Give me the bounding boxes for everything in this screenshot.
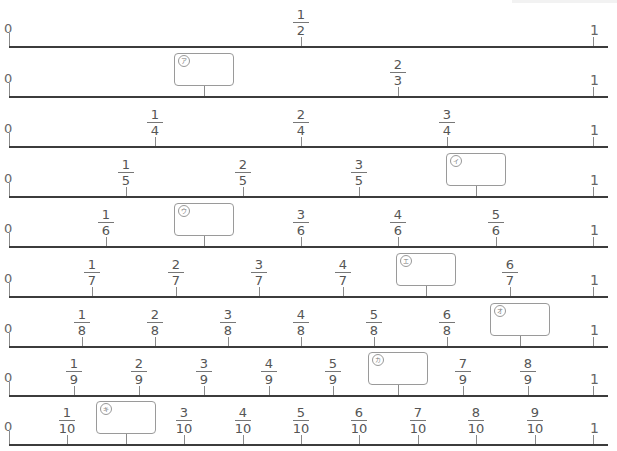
- fraction-tick: [447, 137, 448, 146]
- fraction-numerator: 1: [112, 158, 140, 171]
- fraction-tick: [67, 435, 68, 444]
- fraction-tick: [155, 137, 156, 146]
- fraction-label: 18: [68, 308, 96, 337]
- answer-box[interactable]: ア: [174, 53, 234, 86]
- fraction-label: 56: [482, 208, 510, 237]
- number-line-row: 01142434: [0, 98, 617, 148]
- fraction-tick: [398, 87, 399, 96]
- answer-box[interactable]: エ: [396, 253, 456, 286]
- fraction-numerator: 2: [162, 258, 190, 271]
- zero-label: 0: [4, 171, 12, 186]
- fraction-label: 36: [287, 208, 315, 237]
- fraction-numerator: 3: [190, 357, 218, 370]
- fraction-numerator: 4: [329, 258, 357, 271]
- fraction-tick: [92, 287, 93, 296]
- fraction-numerator: 9: [521, 406, 549, 419]
- fraction-label: 67: [496, 258, 524, 287]
- number-line-row: 0123ア: [0, 48, 617, 98]
- fraction-denominator: 5: [345, 174, 373, 187]
- fraction-numerator: 5: [482, 208, 510, 221]
- fraction-label: 910: [521, 406, 549, 435]
- fraction-denominator: 10: [287, 422, 315, 435]
- fraction-denominator: 9: [190, 373, 218, 386]
- fraction-numerator: 2: [141, 308, 169, 321]
- fraction-tick: [359, 187, 360, 196]
- answer-mark-label: カ: [372, 354, 384, 366]
- one-label: 1: [590, 272, 599, 288]
- fraction-denominator: 8: [68, 324, 96, 337]
- one-tick: [593, 187, 594, 196]
- fraction-tick: [476, 435, 477, 444]
- fraction-tick: [204, 386, 205, 395]
- fraction-denominator: 6: [482, 224, 510, 237]
- fraction-denominator: 5: [229, 174, 257, 187]
- fraction-denominator: 9: [60, 373, 88, 386]
- fraction-numerator: 4: [384, 208, 412, 221]
- fraction-denominator: 7: [329, 274, 357, 287]
- answer-box[interactable]: オ: [490, 303, 550, 336]
- number-line-row: 011727374767エ: [0, 248, 617, 298]
- fraction-denominator: 4: [287, 124, 315, 137]
- fraction-label: 810: [462, 406, 490, 435]
- fraction-label: 15: [112, 158, 140, 187]
- fraction-tick: [269, 386, 270, 395]
- one-label: 1: [590, 22, 599, 38]
- fraction-numerator: 6: [496, 258, 524, 271]
- fraction-denominator: 7: [78, 274, 106, 287]
- one-tick: [593, 237, 594, 246]
- fraction-label: 410: [229, 406, 257, 435]
- answer-tick: [398, 385, 399, 395]
- fraction-numerator: 8: [462, 406, 490, 419]
- fraction-tick: [176, 287, 177, 296]
- fraction-numerator: 1: [78, 258, 106, 271]
- fraction-denominator: 9: [449, 373, 477, 386]
- fraction-label: 39: [190, 357, 218, 386]
- number-line-row: 01152535イ: [0, 148, 617, 198]
- fraction-label: 37: [245, 258, 273, 287]
- answer-box[interactable]: カ: [368, 352, 428, 385]
- fraction-numerator: 3: [245, 258, 273, 271]
- fraction-label: 59: [319, 357, 347, 386]
- number-line-axis: [9, 444, 608, 446]
- fraction-denominator: 10: [53, 422, 81, 435]
- one-tick: [593, 87, 594, 96]
- fraction-label: 710: [404, 406, 432, 435]
- one-label: 1: [590, 222, 599, 238]
- fraction-tick: [259, 287, 260, 296]
- answer-box[interactable]: キ: [96, 401, 156, 434]
- fraction-tick: [528, 386, 529, 395]
- fraction-numerator: 3: [287, 208, 315, 221]
- zero-label: 0: [4, 271, 12, 286]
- answer-box[interactable]: ウ: [174, 203, 234, 236]
- fraction-numerator: 5: [319, 357, 347, 370]
- fraction-numerator: 2: [125, 357, 153, 370]
- fraction-label: 47: [329, 258, 357, 287]
- fraction-label: 24: [287, 108, 315, 137]
- fraction-denominator: 7: [245, 274, 273, 287]
- one-tick: [593, 386, 594, 395]
- fraction-label: 23: [384, 58, 412, 87]
- zero-label: 0: [4, 71, 12, 86]
- fraction-label: 14: [141, 108, 169, 137]
- fraction-label: 89: [514, 357, 542, 386]
- one-tick: [593, 37, 594, 46]
- fraction-denominator: 4: [141, 124, 169, 137]
- fraction-denominator: 7: [162, 274, 190, 287]
- answer-mark-label: イ: [450, 155, 462, 167]
- answer-tick: [126, 434, 127, 444]
- fraction-label: 49: [255, 357, 283, 386]
- number-line-row: 0112: [0, 0, 617, 48]
- one-tick: [593, 435, 594, 444]
- fraction-denominator: 10: [345, 422, 373, 435]
- fraction-numerator: 7: [404, 406, 432, 419]
- one-label: 1: [590, 172, 599, 188]
- answer-box[interactable]: イ: [446, 153, 506, 186]
- fraction-numerator: 1: [287, 8, 315, 21]
- fraction-denominator: 6: [92, 224, 120, 237]
- fraction-denominator: 9: [319, 373, 347, 386]
- fraction-numerator: 1: [92, 208, 120, 221]
- answer-tick: [204, 236, 205, 246]
- fraction-denominator: 7: [496, 274, 524, 287]
- fraction-label: 34: [433, 108, 461, 137]
- one-tick: [593, 137, 594, 146]
